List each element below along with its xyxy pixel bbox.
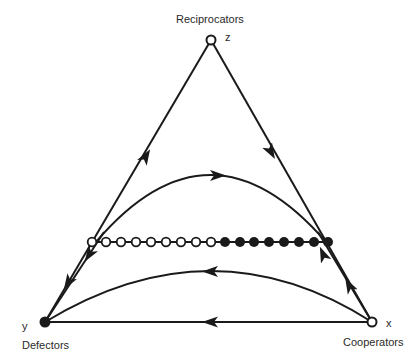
label-cooperators: Cooperators: [343, 336, 404, 348]
stable-fixed-point: [309, 237, 319, 247]
stable-fixed-point: [323, 237, 333, 247]
vertex-cooperators: [368, 318, 377, 327]
right-edge: [211, 40, 372, 322]
unstable-fixed-point: [88, 238, 97, 247]
unstable-fixed-point: [177, 238, 186, 247]
stable-fixed-point: [279, 237, 289, 247]
upper-arc: [96, 175, 326, 242]
arrow-up-icon: [323, 254, 329, 268]
vertex-defectors: [40, 317, 51, 328]
unstable-fixed-point: [132, 238, 141, 247]
left-edge: [45, 40, 211, 322]
unstable-fixed-point: [192, 238, 201, 247]
unstable-fixed-point: [207, 238, 216, 247]
unstable-fixed-point: [147, 238, 156, 247]
fixed-point-line: [88, 237, 333, 247]
stable-fixed-point: [264, 237, 274, 247]
label-reciprocators: Reciprocators: [176, 13, 244, 25]
variable-y: y: [22, 320, 28, 332]
unstable-fixed-point: [162, 238, 171, 247]
variable-x: x: [386, 317, 392, 329]
lower-arc: [45, 271, 372, 322]
stable-fixed-point: [220, 237, 230, 247]
vertex-reciprocators: [207, 36, 216, 45]
unstable-fixed-point: [117, 238, 126, 247]
variable-z: z: [225, 31, 231, 43]
simplex-diagram: [0, 0, 417, 361]
stable-fixed-point: [235, 237, 245, 247]
unstable-fixed-point: [102, 238, 111, 247]
stable-fixed-point: [294, 237, 304, 247]
label-defectors: Defectors: [22, 339, 69, 351]
stable-fixed-point: [249, 237, 259, 247]
